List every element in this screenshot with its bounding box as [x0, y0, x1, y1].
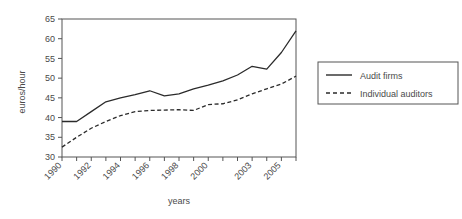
- chart-figure: 3035404550556065 19901992199419961998200…: [0, 0, 462, 219]
- y-tick-label-30: 30: [45, 152, 55, 162]
- y-axis-title: euros/hour: [17, 70, 27, 113]
- x-tick-label-2005: 2005: [262, 160, 283, 181]
- y-axis-ticks: [58, 19, 62, 157]
- y-tick-label-35: 35: [45, 132, 55, 142]
- x-tick-label-1992: 1992: [71, 160, 92, 181]
- x-axis-title: years: [168, 196, 191, 206]
- x-axis-tick-labels: 19901992199419961998200020032005: [42, 160, 283, 181]
- x-tick-label-1996: 1996: [130, 160, 151, 181]
- line-chart: 3035404550556065 19901992199419961998200…: [0, 0, 462, 219]
- x-tick-label-1994: 1994: [101, 160, 122, 181]
- legend-label-audit-firms: Audit firms: [360, 71, 403, 81]
- y-tick-label-45: 45: [45, 93, 55, 103]
- y-tick-label-50: 50: [45, 73, 55, 83]
- plot-frame: [62, 19, 296, 157]
- x-tick-label-1990: 1990: [42, 160, 63, 181]
- x-axis-ticks: [62, 157, 296, 161]
- x-tick-label-2003: 2003: [232, 160, 253, 181]
- legend-label-individual-auditors: Individual auditors: [360, 89, 433, 99]
- y-axis-tick-labels: 3035404550556065: [45, 14, 55, 162]
- x-tick-label-2000: 2000: [188, 160, 209, 181]
- y-tick-label-55: 55: [45, 54, 55, 64]
- x-tick-label-1998: 1998: [159, 160, 180, 181]
- y-tick-label-40: 40: [45, 113, 55, 123]
- y-tick-label-65: 65: [45, 14, 55, 24]
- y-tick-label-60: 60: [45, 34, 55, 44]
